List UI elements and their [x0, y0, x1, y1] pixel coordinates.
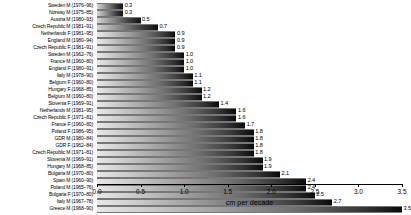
bar-value-label: 1.6 — [238, 113, 245, 121]
category-label-row: Norway M (1975–85) — [0, 9, 95, 16]
category-label: France M (1960–80) — [50, 58, 93, 65]
bar-value-label: 0.7 — [160, 22, 167, 30]
bar-value-label: 3.5 — [404, 204, 411, 212]
x-tick-label: 3.0 — [354, 188, 363, 195]
category-label: France F (1960–80) — [52, 121, 94, 128]
x-tick-mark — [228, 184, 229, 187]
category-label: Belgium M (1960–80) — [48, 93, 93, 100]
bar-value-label: 1.1 — [194, 78, 201, 86]
bar-row: 1.0 — [97, 51, 402, 58]
bar-row: 0.9 — [97, 30, 402, 37]
category-label: Spain M (1960–90) — [53, 177, 93, 184]
x-tick-mark — [402, 184, 403, 187]
bar-row: 1.2 — [97, 93, 402, 100]
x-tick-mark — [358, 184, 359, 187]
category-label-row: Czech Republic M (1981–91) — [0, 23, 95, 30]
category-label-row: England M (1980–94) — [0, 37, 95, 44]
category-label-row: Italy M (1967–78) — [0, 198, 95, 205]
category-label: Czech Republic F (1971–81) — [33, 114, 93, 121]
category-label: GDR F (1962–84) — [56, 142, 94, 149]
category-label-row: Netherlands F (1981–95) — [0, 30, 95, 37]
bar-value-label: 0.3 — [125, 8, 132, 16]
category-label: Netherlands F (1981–95) — [41, 30, 93, 37]
category-label-row: France M (1960–80) — [0, 58, 95, 65]
x-axis-ticks: 0.00.51.01.52.02.53.03.5 — [97, 184, 402, 198]
x-tick-mark — [97, 184, 98, 187]
bar-value-label: 1.9 — [264, 162, 271, 170]
category-label-row: Slovenia F (1969–91) — [0, 100, 95, 107]
x-axis-title: cm per decade — [97, 198, 402, 207]
bar-value-label: 1.0 — [186, 64, 193, 72]
category-label: Poland F (1986–95) — [52, 128, 94, 135]
x-tick-label: 0.0 — [93, 188, 102, 195]
x-tick-label: 2.0 — [267, 188, 276, 195]
bar-row: 0.5 — [97, 16, 402, 23]
bar-row: 1.9 — [97, 156, 402, 163]
category-label: Belgium F (1960–80) — [49, 79, 93, 86]
category-label-row: Bulgaria F (1970–80) — [0, 191, 95, 198]
category-label-row: Belgium F (1960–80) — [0, 79, 95, 86]
bar-row: 2.1 — [97, 170, 402, 177]
category-label: Czech Republic F (1981–91) — [33, 44, 93, 51]
category-label: Italy M (1978–90) — [57, 72, 93, 79]
category-label-row: Poland F (1986–95) — [0, 128, 95, 135]
category-label-row: Czech Republic M (1971–81) — [0, 149, 95, 156]
category-label-row: Sweden M (1962–76) — [0, 51, 95, 58]
bar-row: 2.4 — [97, 177, 402, 184]
category-label: Greece M (1968–90) — [50, 205, 93, 212]
bar-row: 1.2 — [97, 86, 402, 93]
category-label: Netherlands M (1981–95) — [40, 107, 93, 114]
x-tick-mark — [141, 184, 142, 187]
bar-row: 1.0 — [97, 65, 402, 72]
x-tick-mark — [315, 184, 316, 187]
category-label: Italy M (1967–78) — [57, 198, 93, 205]
bar-value-label: 1.4 — [221, 99, 228, 107]
category-label: Czech Republic M (1981–91) — [32, 23, 93, 30]
bar-row: 1.1 — [97, 79, 402, 86]
category-axis-labels: Sweden M (1976–96)Norway M (1975–85)Aust… — [0, 2, 95, 184]
bar-row: 1.9 — [97, 163, 402, 170]
category-label: Hungary M (1968–85) — [47, 163, 93, 170]
category-label-row: England F (1980–91) — [0, 65, 95, 72]
x-tick-label: 0.5 — [136, 188, 145, 195]
category-label-row: Greece M (1968–90) — [0, 205, 95, 212]
category-label-row: Sweden M (1976–96) — [0, 2, 95, 9]
bar-row: 1.1 — [97, 72, 402, 79]
bar-value-label: 1.7 — [247, 120, 254, 128]
x-tick-label: 1.0 — [180, 188, 189, 195]
x-tick-mark — [184, 184, 185, 187]
bar-row: 1.8 — [97, 135, 402, 142]
category-label-row: Hungary M (1968–85) — [0, 163, 95, 170]
x-tick-label: 2.5 — [310, 188, 319, 195]
bar-row: 0.9 — [97, 44, 402, 51]
bar-row: 1.6 — [97, 107, 402, 114]
plot-area: 0.30.30.50.70.90.90.91.01.01.01.11.11.21… — [97, 2, 402, 184]
bar-row: 1.4 — [97, 100, 402, 107]
category-label-row: Hungary F (1968–85) — [0, 86, 95, 93]
category-label-row: Czech Republic F (1971–81) — [0, 114, 95, 121]
bar-value-label: 2.1 — [282, 169, 289, 177]
category-label: Hungary F (1968–85) — [48, 86, 93, 93]
category-label-row: Netherlands M (1981–95) — [0, 107, 95, 114]
category-label-row: France F (1960–80) — [0, 121, 95, 128]
bar-row: 1.8 — [97, 128, 402, 135]
bar-value-label: 0.5 — [142, 15, 149, 23]
category-label: Czech Republic M (1971–81) — [32, 149, 93, 156]
category-label: GDR M (1980–84) — [54, 135, 93, 142]
bar-row: 0.3 — [97, 2, 402, 9]
category-label: Austria M (1980–93) — [51, 16, 93, 23]
category-label: Bulgaria F (1970–80) — [49, 191, 93, 198]
bar-row: 0.7 — [97, 23, 402, 30]
bar-value-label: 0.9 — [177, 43, 184, 51]
category-label-row: Bulgaria M (1970–80) — [0, 170, 95, 177]
category-label: Poland M (1965–76) — [50, 184, 93, 191]
category-label-row: Poland M (1965–76) — [0, 184, 95, 191]
category-label: Sweden M (1976–96) — [48, 2, 93, 9]
x-tick-mark — [271, 184, 272, 187]
category-label-row: GDR M (1980–84) — [0, 135, 95, 142]
bar-value-label: 1.8 — [255, 148, 262, 156]
category-label: Sweden M (1962–76) — [48, 51, 93, 58]
bar-value-label: 1.2 — [203, 92, 210, 100]
category-label-row: Austria M (1980–93) — [0, 16, 95, 23]
